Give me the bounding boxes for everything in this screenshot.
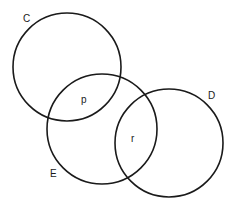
circle-e [47,74,157,184]
label-c: C [23,13,30,24]
circle-c [13,13,121,121]
label-d: D [208,90,215,101]
venn-diagram: C E D p r [0,0,234,209]
label-e: E [50,168,57,179]
region-label-r: r [131,133,135,144]
region-label-p: p [81,94,87,105]
